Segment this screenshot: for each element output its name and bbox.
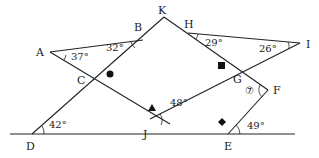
line-aj bbox=[50, 52, 170, 124]
angle-arc-a bbox=[64, 55, 66, 60]
diamond-marker bbox=[218, 118, 226, 126]
angle-label-d: 42° bbox=[49, 119, 67, 130]
square-marker bbox=[218, 62, 225, 69]
angle-label-a: 37° bbox=[71, 51, 89, 62]
point-label-k: K bbox=[158, 4, 167, 17]
point-label-e: E bbox=[224, 140, 232, 153]
angle-label-f: ⑦ bbox=[245, 85, 254, 96]
point-label-g: G bbox=[233, 73, 242, 86]
angle-label-e: 49° bbox=[247, 120, 265, 131]
line-kf bbox=[164, 17, 268, 90]
angle-label-b: 32° bbox=[106, 42, 124, 53]
triangle-marker bbox=[148, 104, 156, 111]
point-label-d: D bbox=[26, 140, 35, 153]
angle-arc-h bbox=[196, 34, 198, 39]
point-label-j: J bbox=[142, 128, 147, 141]
point-label-h: H bbox=[184, 18, 194, 31]
line-ab bbox=[50, 40, 143, 52]
geometry-diagram: A B C D E F G H I J K 37° 32° 29° 26° 48… bbox=[0, 0, 319, 158]
angle-label-h: 29° bbox=[205, 37, 223, 48]
angle-label-i: 26° bbox=[259, 43, 277, 54]
point-label-b: B bbox=[134, 21, 142, 34]
point-label-c: C bbox=[77, 74, 85, 87]
angle-arc-d bbox=[42, 126, 44, 134]
point-label-f: F bbox=[273, 84, 281, 97]
angle-arc-e bbox=[236, 125, 240, 134]
angle-arc-j bbox=[160, 114, 162, 125]
angle-arc-f bbox=[259, 85, 262, 97]
line-dk bbox=[32, 17, 164, 134]
angle-arc-i bbox=[288, 42, 289, 49]
circle-marker bbox=[107, 71, 114, 78]
point-label-a: A bbox=[35, 46, 45, 59]
point-label-i: I bbox=[306, 38, 310, 51]
angle-label-j: 48° bbox=[170, 97, 188, 108]
